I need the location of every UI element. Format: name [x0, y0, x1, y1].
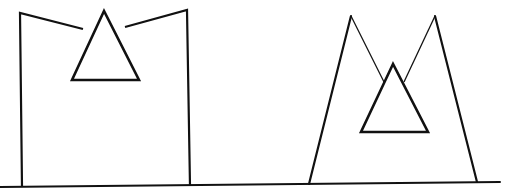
- left-figure-left-wall: [20, 13, 83, 187]
- diagram-canvas: [0, 0, 508, 192]
- left-figure-right-wall: [125, 10, 190, 186]
- right-figure-thin-line-right: [404, 16, 435, 82]
- left-figure: [20, 10, 190, 187]
- left-figure-triangle: [72, 11, 139, 80]
- diagram-svg: [0, 0, 508, 192]
- right-figure: [309, 16, 477, 184]
- right-figure-right-leg: [435, 16, 477, 182]
- right-figure-thin-line-left: [351, 16, 384, 82]
- right-figure-triangle: [361, 64, 428, 132]
- ground-line: [0, 182, 500, 187]
- right-figure-left-leg: [309, 16, 351, 184]
